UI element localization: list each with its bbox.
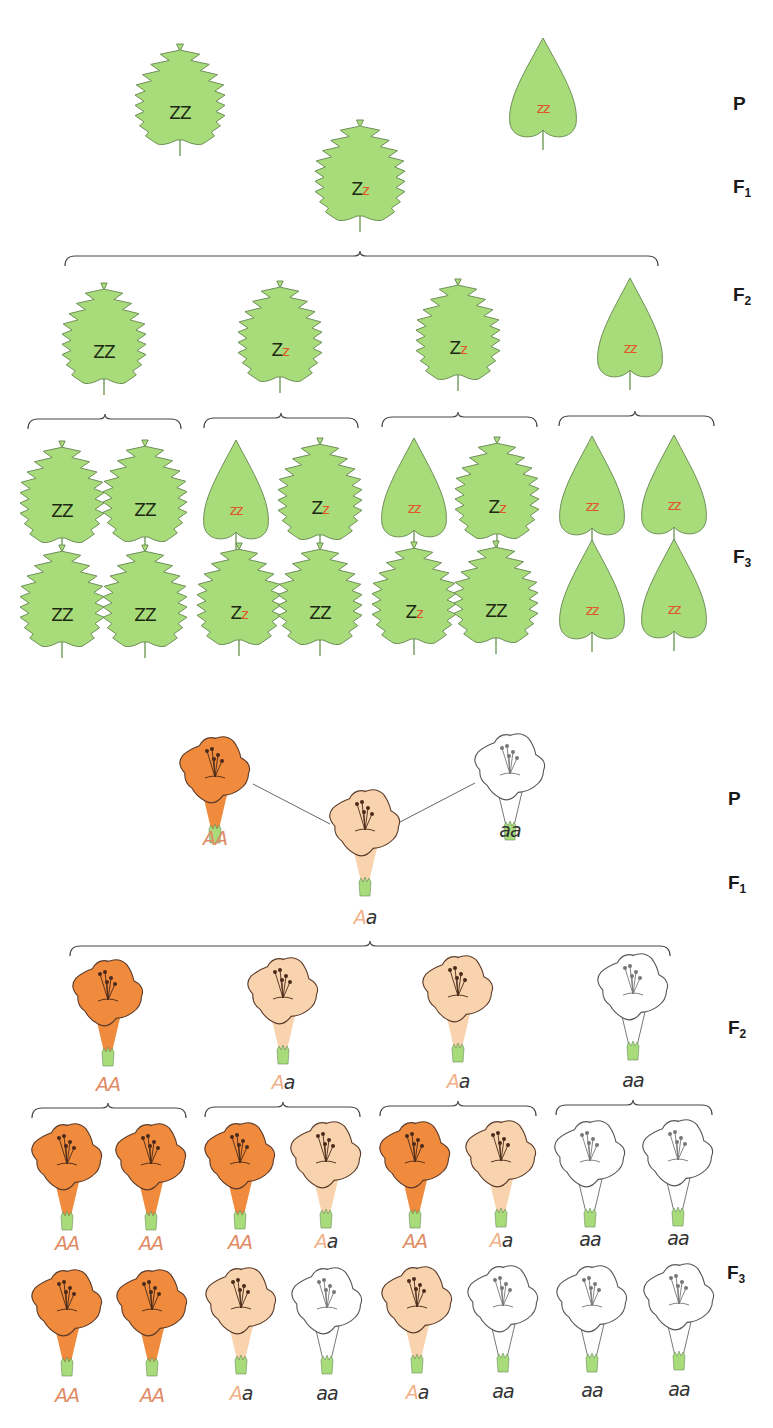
white-flower-icon xyxy=(643,1120,713,1226)
gen-label-subscript: 1 xyxy=(740,882,747,896)
dark-flower-icon xyxy=(117,1270,187,1376)
dominant-allele: A xyxy=(447,1070,459,1092)
flower-genotype: aa xyxy=(622,1069,643,1091)
dominant-allele: Z xyxy=(62,605,73,625)
flower-brace xyxy=(32,1103,186,1118)
white-flower-icon xyxy=(555,1121,625,1227)
smooth-leaf-icon xyxy=(204,440,269,552)
dominant-allele: A xyxy=(215,827,227,849)
recessive-allele: a xyxy=(327,1382,338,1404)
leaf-genotype: ZZ xyxy=(51,501,72,521)
leaf-genotype: Zz xyxy=(449,338,466,358)
serrated-leaf-icon xyxy=(454,541,538,654)
flower-genotype: AA xyxy=(55,1232,79,1254)
dominant-allele: Z xyxy=(145,500,156,520)
recessive-allele: a xyxy=(510,819,521,841)
leaf-brace xyxy=(559,411,714,426)
recessive-allele: a xyxy=(327,1230,338,1252)
smooth-leaf-icon xyxy=(642,539,707,651)
leaf-brace xyxy=(28,414,181,429)
gen-label-main: F xyxy=(728,872,740,893)
recessive-allele: a xyxy=(418,1381,429,1403)
leaf-brace xyxy=(382,412,537,427)
recessive-allele: a xyxy=(668,1378,679,1400)
recessive-allele: z xyxy=(282,343,288,359)
recessive-allele: z xyxy=(630,340,636,356)
flower-genotype: Aa xyxy=(490,1229,513,1251)
white-flower-icon xyxy=(292,1268,362,1374)
flower-genotype: Aa xyxy=(447,1070,470,1092)
light-flower-icon xyxy=(206,1268,276,1374)
white-flower-icon xyxy=(557,1266,627,1372)
gen-label-subscript: 3 xyxy=(745,556,752,570)
flower-genotype: AA xyxy=(203,827,227,849)
flower-genotype: AA xyxy=(96,1073,120,1095)
flower-genotype: AA xyxy=(55,1384,79,1406)
dominant-allele: A xyxy=(151,1232,163,1254)
smooth-leaf-icon xyxy=(598,278,663,390)
monohybrid-inheritance-diagram: P F1 F2 F3 P F1 F2 F3 ZZzzZzZZZzZzzzZZZZ… xyxy=(0,0,773,1428)
dark-flower-icon xyxy=(32,1270,102,1376)
leaf-genotype: zz xyxy=(668,598,681,618)
dominant-allele: A xyxy=(315,1230,327,1252)
recessive-allele: a xyxy=(590,1228,601,1250)
light-flower-icon xyxy=(248,958,318,1064)
cross-line xyxy=(400,783,475,822)
dominant-allele: A xyxy=(55,1232,67,1254)
dominant-allele: Z xyxy=(145,605,156,625)
leaf-gen-label-p: P xyxy=(733,93,746,115)
gen-label-subscript: 2 xyxy=(745,294,752,308)
gen-label-subscript: 1 xyxy=(745,186,752,200)
leaf-genotype: ZZ xyxy=(485,601,506,621)
serrated-leaf-icon xyxy=(372,542,456,655)
smooth-leaf-icon xyxy=(560,436,625,548)
gen-label-main: P xyxy=(728,788,741,809)
recessive-allele: z xyxy=(322,501,328,517)
leaf-genotype: ZZ xyxy=(169,103,190,123)
leaf-genotype: Zz xyxy=(271,340,288,360)
serrated-leaf-icon xyxy=(315,120,405,232)
recessive-allele: z xyxy=(592,498,598,514)
recessive-allele: z xyxy=(499,500,505,516)
serrated-leaf-icon xyxy=(62,283,146,395)
flower-genotype: AA xyxy=(140,1384,164,1406)
recessive-allele: a xyxy=(242,1382,253,1404)
dominant-allele: A xyxy=(354,906,366,928)
leaf-genotype: ZZ xyxy=(51,605,72,625)
dominant-allele: A xyxy=(415,1230,427,1252)
recessive-allele: a xyxy=(679,1378,690,1400)
dominant-allele: Z xyxy=(93,342,104,362)
recessive-allele: a xyxy=(316,1382,327,1404)
leaf-genotype: zz xyxy=(624,337,637,357)
gen-label-main: F xyxy=(728,1017,740,1038)
recessive-allele: a xyxy=(284,1071,295,1093)
serrated-leaf-icon xyxy=(103,545,187,658)
leaf-genotype: ZZ xyxy=(134,500,155,520)
serrated-leaf-icon xyxy=(278,438,362,551)
leaf-genotype: zz xyxy=(408,497,421,517)
leaf-brace xyxy=(65,251,658,266)
flower-genotype: Aa xyxy=(406,1381,429,1403)
leaf-genotype: ZZ xyxy=(134,605,155,625)
recessive-allele: a xyxy=(667,1227,678,1249)
recessive-allele: a xyxy=(503,1380,514,1402)
recessive-allele: a xyxy=(622,1069,633,1091)
serrated-leaf-icon xyxy=(20,545,104,658)
leaf-genotype: zz xyxy=(537,97,550,117)
gen-label-main: F xyxy=(727,1262,739,1283)
leaf-genotype: ZZ xyxy=(309,603,330,623)
serrated-leaf-icon xyxy=(416,279,500,391)
dominant-allele: A xyxy=(228,1231,240,1253)
light-flower-icon xyxy=(291,1122,361,1228)
flower-brace xyxy=(205,1102,360,1117)
flower-genotype: aa xyxy=(581,1379,602,1401)
dominant-allele: A xyxy=(152,1384,164,1406)
recessive-allele: z xyxy=(592,602,598,618)
recessive-allele: z xyxy=(236,502,242,518)
leaf-genotype: zz xyxy=(230,499,243,519)
dominant-allele: A xyxy=(67,1384,79,1406)
gen-label-main: F xyxy=(733,176,745,197)
dominant-allele: A xyxy=(140,1384,152,1406)
dominant-allele: A xyxy=(108,1073,120,1095)
gen-label-subscript: 3 xyxy=(739,1272,746,1286)
